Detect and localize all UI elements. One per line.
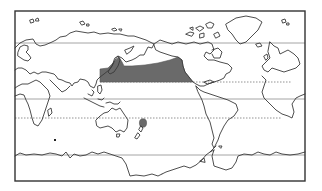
indonesia-islands <box>84 90 120 107</box>
australia-coastline <box>96 108 128 132</box>
novaya-zemlya <box>30 18 39 23</box>
svalbard <box>282 19 289 25</box>
falkland-islands <box>219 146 222 148</box>
new-zealand-coastline <box>135 126 143 139</box>
africa-coastline <box>15 80 50 126</box>
severnaya-zemlya <box>80 21 89 26</box>
madagascar <box>48 108 52 116</box>
indian-ocean-dot <box>54 139 56 141</box>
world-map <box>0 0 322 191</box>
philippines <box>98 85 102 94</box>
antarctica-coastline <box>15 150 305 176</box>
new-zealand-shaded-spot <box>139 119 146 127</box>
hudson-bay <box>212 48 222 58</box>
map-frame <box>15 11 305 181</box>
british-isles <box>264 54 268 60</box>
scandinavia-coastline <box>18 45 31 61</box>
iceland <box>256 43 262 47</box>
south-america-coastline <box>196 86 238 148</box>
canadian-arctic-islands <box>186 22 220 38</box>
tasmania <box>117 134 120 137</box>
sakhalin <box>125 46 134 54</box>
latitude-lines <box>15 43 305 155</box>
greenland-coastline <box>226 16 262 44</box>
world-map-svg <box>0 0 322 191</box>
new-siberian-islands <box>112 28 122 31</box>
